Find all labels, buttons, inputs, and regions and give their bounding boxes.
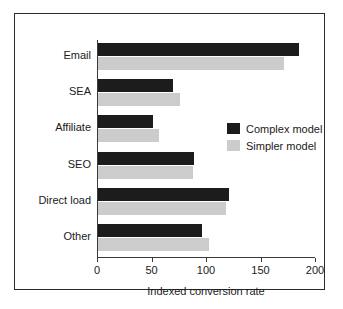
category-label: Direct load (21, 194, 91, 206)
x-tick-label: 200 (295, 264, 335, 276)
bar-simpler-model (98, 57, 284, 70)
category-label: Email (21, 49, 91, 61)
bar-complex-model (98, 152, 194, 165)
category-label: SEA (21, 85, 91, 97)
x-tick-mark (206, 258, 207, 262)
category-label: Other (21, 230, 91, 242)
x-axis-title: Indexed conversion rate (97, 285, 315, 297)
legend-swatch-icon-simpler-model (227, 140, 240, 151)
x-tick-label: 100 (186, 264, 226, 276)
bar-complex-model (98, 188, 229, 201)
legend-item-simpler-model: Simpler model (227, 138, 322, 153)
bar-simpler-model (98, 93, 180, 106)
bar-simpler-model (98, 202, 226, 215)
bar-complex-model (98, 115, 153, 128)
x-tick-label: 0 (77, 264, 117, 276)
bar-simpler-model (98, 238, 209, 251)
legend-label-complex-model: Complex model (246, 123, 322, 135)
category-label: Affiliate (21, 121, 91, 133)
bar-simpler-model (98, 166, 193, 179)
legend-label-simpler-model: Simpler model (246, 140, 316, 152)
chart-legend: Complex model Simpler model (227, 121, 322, 155)
figure-frame: EmailSEAAffiliateSEODirect loadOther 050… (14, 13, 325, 290)
chart-figure: EmailSEAAffiliateSEODirect loadOther 050… (0, 0, 343, 309)
x-tick-label: 50 (132, 264, 172, 276)
bar-simpler-model (98, 129, 159, 142)
x-tick-label: 150 (241, 264, 281, 276)
x-tick-mark (261, 258, 262, 262)
legend-swatch-icon-complex-model (227, 123, 240, 134)
x-tick-mark (97, 258, 98, 262)
bar-complex-model (98, 79, 173, 92)
x-tick-mark (315, 258, 316, 262)
bar-complex-model (98, 43, 299, 56)
legend-item-complex-model: Complex model (227, 121, 322, 136)
x-tick-mark (152, 258, 153, 262)
bar-complex-model (98, 224, 202, 237)
category-label: SEO (21, 158, 91, 170)
